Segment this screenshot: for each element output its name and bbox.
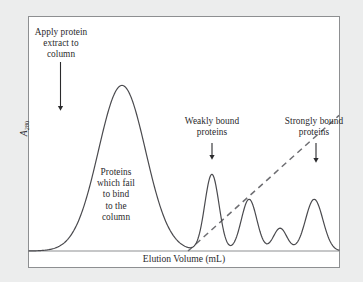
absorbance-trace <box>29 85 339 251</box>
annotation-unbound-proteins: Proteins which fail to bind to the colum… <box>78 167 154 223</box>
annotation-weakly-bound: Weakly bound proteins <box>170 116 254 138</box>
annotation-strongly-bound: Strongly bound proteins <box>272 116 356 138</box>
y-axis-symbol: A <box>18 130 29 136</box>
figure-container: Apply protein extract to column Proteins… <box>0 0 363 282</box>
y-axis-label: A280 <box>18 113 31 143</box>
y-axis-subscript: 280 <box>23 121 30 131</box>
annotation-apply-sample: Apply protein extract to column <box>14 27 108 61</box>
x-axis-label: Elution Volume (mL) <box>28 253 340 264</box>
